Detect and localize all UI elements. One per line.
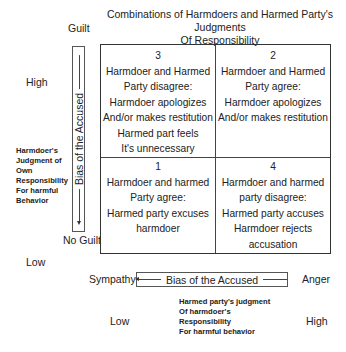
x-axis-description: Harmed party's judgment Of harmdoer's Re… [179,297,270,337]
title-line-1: Combinations of Harmdoers and Harmed Par… [100,8,340,34]
y-axis-description: Harmdoer's Judgment of Own Responsibilit… [16,146,68,206]
cell-4: 4 Harmdoer and harmed party disagree: Ha… [216,159,330,252]
cell-number: 1 [101,159,215,175]
y-bottom-label: No Guilt [63,234,101,246]
arrow-down-icon [78,189,79,223]
cell-number: 2 [216,48,330,64]
arrow-left-icon [137,279,161,280]
line-icon [78,55,79,89]
x-low-label: Low [110,315,129,327]
y-low-label: Low [26,256,45,268]
cell-number: 3 [101,48,215,64]
x-high-label: High [306,315,328,327]
line-icon [263,279,287,280]
vertical-bias-label: Bias of the Accused [73,93,85,185]
x-right-label: Anger [302,273,330,285]
horizontal-bias-label: Bias of the Accused [166,274,258,286]
x-left-label: Sympathy [89,273,136,285]
y-high-label: High [26,76,48,88]
diagram-title: Combinations of Harmdoers and Harmed Par… [100,8,340,47]
vertical-bias-box: Bias of the Accused [72,46,85,232]
grid-horizontal-divider [101,157,330,158]
cell-3: 3 Harmdoer and Harmed Party disagree: Ha… [101,48,215,157]
cell-number: 4 [216,159,330,175]
y-top-label: Guilt [68,22,90,34]
quadrant-grid: 3 Harmdoer and Harmed Party disagree: Ha… [100,44,331,254]
horizontal-bias-box: Bias of the Accused [136,272,288,287]
cell-2: 2 Harmdoer and Harmed Party agree: Harmd… [216,48,330,126]
cell-1: 1 Harmdoer and harmed Party agree: Harme… [101,159,215,237]
